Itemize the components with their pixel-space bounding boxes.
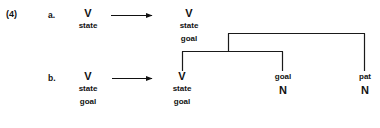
diagram-lines-layer <box>0 0 380 128</box>
tree-branch-inner <box>182 52 283 72</box>
tree-branch-root <box>228 34 365 72</box>
figure-canvas: (4) a. V state V state goal b. V state g… <box>0 0 380 128</box>
